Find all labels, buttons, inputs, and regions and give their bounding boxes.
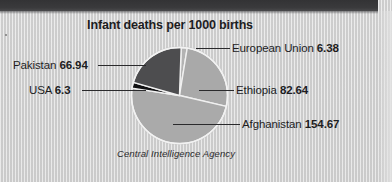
pie-label-ethiopia: Ethiopia 82.64 (236, 84, 308, 96)
page-top-dark-band (0, 0, 378, 11)
page-top-band-shadow (0, 11, 378, 14)
leader-line-afghanistan (173, 124, 240, 125)
chart-source-note: Central Intelligence Agency (0, 148, 352, 159)
pie-label-afghanistan-value: 154.67 (305, 118, 340, 130)
leader-line-ethiopia (199, 90, 234, 91)
pie-label-ethiopia-value: 82.64 (280, 84, 308, 96)
pie-label-european-union: European Union 6.38 (232, 42, 339, 54)
chart-title: Infant deaths per 1000 births (0, 18, 340, 32)
pie-label-pakistan-name: Pakistan (13, 59, 56, 71)
pie-label-european-union-name: European Union (232, 42, 314, 54)
pie-label-afghanistan-name: Afghanistan (242, 118, 302, 130)
leader-line-usa (82, 90, 146, 91)
scan-artifact-mark (5, 34, 7, 36)
leader-line-european-union (196, 48, 230, 49)
pie-label-ethiopia-name: Ethiopia (236, 84, 277, 96)
leader-line-pakistan (98, 65, 146, 66)
pie-label-usa-value: 6.3 (55, 84, 71, 96)
pie-chart (128, 44, 231, 147)
chart-figure: Infant deaths per 1000 births European U… (0, 0, 392, 182)
pie-label-pakistan: Pakistan 66.94 (13, 59, 88, 71)
pie-label-pakistan-value: 66.94 (59, 59, 87, 71)
pie-chart-svg (128, 44, 231, 147)
pie-label-afghanistan: Afghanistan 154.67 (242, 118, 339, 130)
scan-edge-gradient (378, 11, 392, 182)
pie-label-usa-name: USA (29, 84, 52, 96)
pie-label-usa: USA 6.3 (29, 84, 71, 96)
pie-label-european-union-value: 6.38 (317, 42, 339, 54)
